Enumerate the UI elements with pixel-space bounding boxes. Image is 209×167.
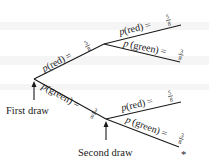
- svg-text:5: 5: [83, 39, 88, 46]
- label-lower-red: p(red)= 5 8: [119, 89, 175, 114]
- svg-text:p(green)=: p(green)=: [123, 113, 169, 140]
- svg-text:8: 8: [86, 46, 91, 53]
- svg-text:5: 5: [167, 90, 171, 97]
- first-draw-arrow-icon: [32, 81, 37, 87]
- svg-text:8: 8: [178, 55, 182, 61]
- svg-text:p(red)=: p(red)=: [39, 49, 74, 75]
- svg-text:3: 3: [180, 132, 185, 139]
- svg-text:3: 3: [180, 48, 184, 54]
- second-draw-arrow-icon: [104, 121, 109, 127]
- svg-text:p(green)=: p(green)=: [121, 37, 167, 58]
- svg-text:p(red)=: p(red)=: [117, 19, 152, 38]
- svg-text:p(red)=: p(red)=: [119, 95, 154, 114]
- svg-text:8: 8: [167, 20, 171, 27]
- second-draw-label: Second draw: [78, 147, 133, 158]
- label-first-red: p(red)= 5 8: [39, 39, 93, 75]
- label-upper-green: p(green)= 3 8: [121, 36, 184, 62]
- probability-tree: p(red)= 5 8 p(green)= 3 8 p(red)= 5 8 p(…: [0, 0, 209, 167]
- svg-text:8: 8: [169, 96, 173, 103]
- asterisk-marker: *: [181, 149, 186, 160]
- svg-text:3: 3: [93, 107, 99, 114]
- svg-text:5: 5: [165, 14, 169, 21]
- svg-text:8: 8: [178, 139, 183, 146]
- svg-text:8: 8: [89, 113, 95, 120]
- first-draw-label: First draw: [6, 105, 49, 116]
